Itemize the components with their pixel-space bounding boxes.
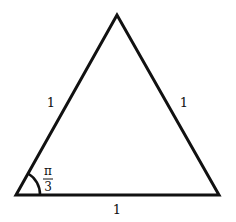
angle-label-numerator: π xyxy=(44,164,52,178)
angle-label-denominator: 3 xyxy=(44,180,52,194)
side-label-right: 1 xyxy=(180,95,188,110)
side-label-bottom: 1 xyxy=(113,202,121,217)
triangle-diagram: 1 1 1 π 3 xyxy=(0,0,236,222)
angle-arc xyxy=(28,174,40,196)
side-label-left: 1 xyxy=(47,95,55,110)
